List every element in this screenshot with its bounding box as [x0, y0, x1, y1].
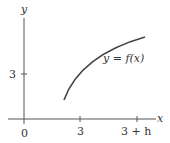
y-tick-3-label: 3 [9, 68, 16, 81]
curve-label: y = f(x) [102, 52, 144, 65]
y-axis-label: y [20, 3, 28, 16]
curve-f [64, 37, 145, 100]
origin-label: 0 [21, 127, 28, 140]
x-axis-label: x [157, 112, 164, 125]
function-graph: y x 0 3 3 + h 3 y = f(x) [0, 0, 170, 143]
x-tick-3h-label: 3 + h [121, 125, 151, 138]
x-tick-3-label: 3 [77, 125, 84, 138]
